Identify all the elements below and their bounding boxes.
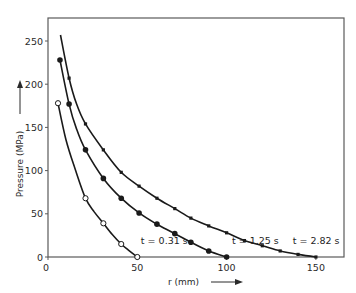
y-tick-label: 100 <box>25 165 43 176</box>
open-circle-marker <box>55 101 60 106</box>
arrow-up-head <box>17 80 23 88</box>
y-tick-label: 150 <box>25 122 43 133</box>
series-markers <box>55 57 317 260</box>
y-tick-label: 50 <box>31 208 43 219</box>
y-tick-label: 250 <box>25 36 43 47</box>
square-marker <box>155 197 158 200</box>
square-marker <box>137 185 140 188</box>
square-marker <box>225 231 228 234</box>
y-tick-label: 0 <box>37 252 43 263</box>
x-tick-label: 50 <box>131 262 143 273</box>
x-axis-label: r (mm) <box>168 277 199 287</box>
open-circle-marker <box>135 254 140 259</box>
open-circle-marker <box>83 196 88 201</box>
arrow-right-head <box>235 279 243 285</box>
filled-circle-marker <box>188 240 194 246</box>
filled-circle-marker <box>66 101 72 107</box>
filled-circle-marker <box>101 176 107 182</box>
square-marker <box>102 148 105 151</box>
square-marker <box>296 253 299 256</box>
x-axis-ticks: 050100150 <box>43 257 325 273</box>
y-axis-title: Pressure (MPa) <box>15 80 25 197</box>
square-marker <box>279 249 282 252</box>
filled-circle-marker <box>57 57 63 63</box>
filled-circle-marker <box>83 147 89 153</box>
series-label: t = 0.31 s <box>141 235 188 246</box>
open-circle-marker <box>101 221 106 226</box>
y-tick-label: 200 <box>25 79 43 90</box>
square-marker <box>120 171 123 174</box>
square-marker <box>67 77 70 80</box>
series-line <box>60 60 227 257</box>
filled-circle-marker <box>118 195 124 201</box>
y-axis-ticks: 050100150200250 <box>25 36 48 263</box>
series-curves <box>58 35 316 257</box>
filled-circle-marker <box>154 221 160 227</box>
series-annotations: t = 0.31 st = 1.25 st = 2.82 s <box>141 235 340 246</box>
x-tick-label: 0 <box>43 262 49 273</box>
filled-circle-marker <box>206 248 212 254</box>
series-line <box>61 35 316 257</box>
square-marker <box>189 217 192 220</box>
x-tick-label: 100 <box>218 262 236 273</box>
y-axis-label: Pressure (MPa) <box>15 131 25 198</box>
filled-circle-marker <box>224 254 230 260</box>
x-tick-label: 150 <box>307 262 325 273</box>
square-marker <box>207 224 210 227</box>
x-axis-title: r (mm) <box>168 277 243 287</box>
series-line <box>58 103 137 257</box>
open-circle-marker <box>119 241 124 246</box>
pressure-chart: 050100150200250 050100150 t = 0.31 st = … <box>0 0 356 293</box>
series-label: t = 1.25 s <box>232 235 279 246</box>
square-marker <box>314 255 317 258</box>
series-label: t = 2.82 s <box>293 235 340 246</box>
filled-circle-marker <box>136 210 142 216</box>
square-marker <box>173 207 176 210</box>
square-marker <box>84 122 87 125</box>
